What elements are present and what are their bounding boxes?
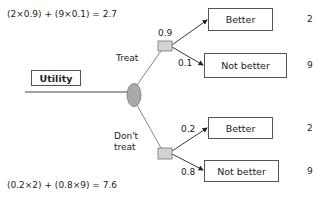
utility-value-dont-not-better: 9 (307, 166, 313, 177)
chance-node-dont-treat-icon (158, 148, 172, 159)
branch-label-dont-line2: treat (114, 142, 136, 153)
chance-node-treat-icon (158, 41, 172, 51)
formula-treat: (2×0.9) + (9×0.1) = 2.7 (7, 9, 117, 20)
branch-label-dont-line1: Don't (114, 131, 138, 142)
probability-treat-better: 0.9 (158, 28, 172, 39)
utility-value-treat-better: 2 (307, 14, 313, 25)
outcome-box-dont-better: Better (208, 117, 273, 139)
formula-dont-treat: (0.2×2) + (0.8×9) = 7.6 (7, 180, 117, 191)
utility-value-dont-better: 2 (307, 123, 313, 134)
outcome-box-treat-not-better: Not better (204, 53, 287, 78)
outcome-box-treat-better: Better (208, 8, 273, 31)
branch-label-treat: Treat (116, 53, 138, 64)
utility-label-box: Utility (31, 70, 81, 86)
outcome-box-dont-not-better: Not better (204, 160, 279, 182)
decision-node-icon (127, 84, 141, 107)
probability-treat-not-better: 0.1 (178, 58, 192, 69)
utility-value-treat-not-better: 9 (307, 60, 313, 71)
probability-dont-better: 0.2 (181, 124, 195, 135)
probability-dont-not-better: 0.8 (181, 167, 195, 178)
